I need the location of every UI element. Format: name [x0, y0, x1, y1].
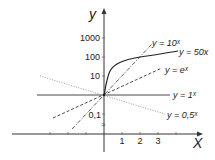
y-axis: ≈: [102, 8, 107, 152]
label-y-1x: y = 1ˣ: [172, 90, 197, 100]
label-y-0-5x: y = 0,5ˣ: [166, 110, 198, 120]
y-axis-label: y: [88, 6, 97, 22]
svg-text:≈: ≈: [102, 121, 106, 128]
exponential-diagram: ≈ y X 1000 100 10 0,1 1 2 3 y = 10ˣ y = …: [0, 0, 215, 160]
x-axis: [12, 132, 203, 137]
y-tick-1000: 1000: [80, 33, 100, 43]
x-tick-2: 2: [137, 136, 142, 146]
origin-point: [103, 94, 105, 96]
label-y-ex: y = eˣ: [164, 65, 189, 75]
x-axis-label: X: [192, 135, 203, 151]
x-tick-1: 1: [119, 136, 124, 146]
x-tick-3: 3: [155, 136, 160, 146]
curve-y-ex: [53, 68, 162, 118]
y-tick-10: 10: [90, 71, 100, 81]
y-tick-0-1: 0,1: [88, 110, 101, 120]
label-y-50x: y = 50x: [178, 47, 209, 57]
label-y-10x: y = 10ˣ: [151, 38, 181, 48]
y-tick-100: 100: [85, 52, 100, 62]
